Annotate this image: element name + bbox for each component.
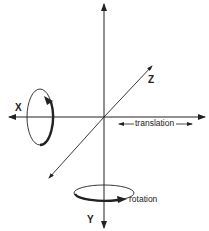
rotation-label: rotation	[129, 195, 157, 204]
y-axis-label: Y	[87, 215, 94, 225]
z-axis-label: Z	[148, 75, 154, 85]
translation-label: translation	[135, 119, 174, 128]
axes-diagram: X Z Y translation rotation	[0, 0, 209, 231]
diagram-graphic	[0, 0, 209, 231]
x-axis-label: X	[15, 103, 22, 113]
